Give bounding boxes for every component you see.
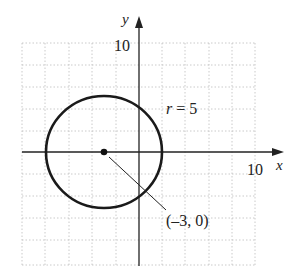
y-axis-arrow-icon [135, 16, 143, 28]
y-axis-label: y [120, 11, 129, 27]
radius-value: = 5 [172, 100, 197, 117]
x-axis-label: x [275, 157, 283, 173]
y-tick-label: 10 [114, 37, 130, 54]
x-axis-arrow-icon [272, 148, 284, 156]
center-label: (–3, 0) [166, 212, 209, 230]
x-tick-label: 10 [247, 161, 263, 178]
radius-label: r = 5 [166, 100, 197, 117]
center-leader-line [109, 157, 166, 210]
center-point [101, 149, 108, 156]
graph-canvas: y 10 x 10 r = 5 (–3, 0) [0, 0, 299, 278]
